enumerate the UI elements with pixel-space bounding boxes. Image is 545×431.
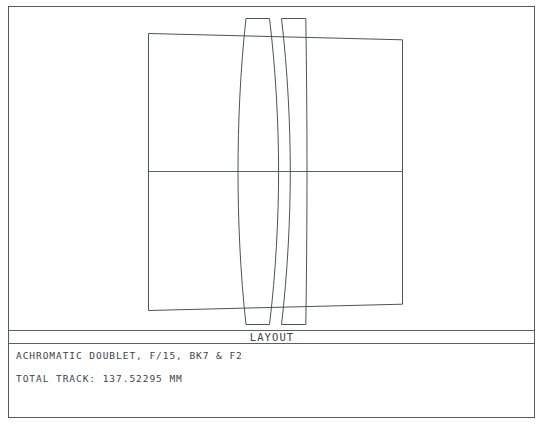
total-track-line: TOTAL TRACK: 137.52295 MM	[16, 373, 183, 384]
optical-drawing-group	[149, 19, 403, 325]
ray-lower-marginal	[149, 304, 403, 310]
layout-window: LAYOUT ACHROMATIC DOUBLET, F/15, BK7 & F…	[0, 0, 545, 431]
system-description: ACHROMATIC DOUBLET, F/15, BK7 & F2	[16, 350, 243, 361]
ray-upper-marginal	[149, 34, 403, 40]
optical-layout-canvas: LAYOUT ACHROMATIC DOUBLET, F/15, BK7 & F…	[0, 0, 545, 431]
panel-title: LAYOUT	[250, 331, 295, 343]
